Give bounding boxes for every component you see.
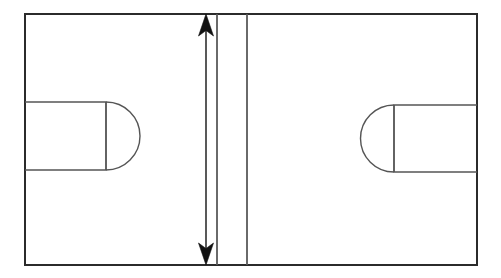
right-slot-body — [394, 105, 477, 172]
left-slot-shape — [25, 102, 140, 170]
outer-frame-rect — [25, 14, 477, 265]
left-slot-body — [25, 102, 106, 170]
right-slot-shape — [361, 105, 478, 172]
right-slot-round-cap-icon — [361, 105, 395, 172]
drawing-canvas — [0, 0, 501, 278]
technical-drawing — [0, 0, 501, 278]
left-slot-round-cap-icon — [106, 102, 140, 170]
vertical-dimension-arrow — [199, 14, 214, 265]
